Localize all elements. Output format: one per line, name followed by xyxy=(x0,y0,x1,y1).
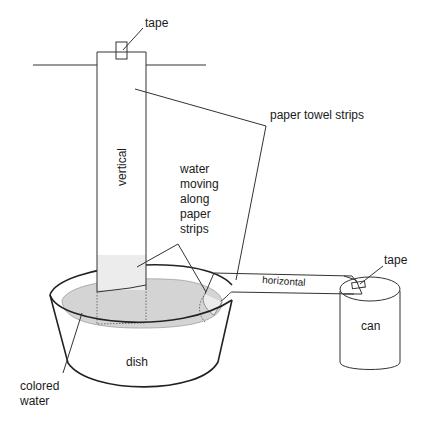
label-colored-water-1: colored xyxy=(20,379,59,393)
label-tape-can: tape xyxy=(384,253,408,267)
experiment-diagram: tape vertical horizontal tape can dish c… xyxy=(0,0,440,425)
label-water-moving-2: moving xyxy=(180,177,219,191)
tape-top-leader xyxy=(123,28,143,50)
label-vertical: vertical xyxy=(115,148,129,186)
tape-top xyxy=(116,42,127,59)
label-tape-top: tape xyxy=(145,16,169,30)
horizontal-strip-bottom-edge xyxy=(220,292,354,302)
tape-can-leader xyxy=(360,266,383,284)
label-water-moving-5: strips xyxy=(180,222,209,236)
label-dish: dish xyxy=(126,355,148,369)
paper-towel-leader-2 xyxy=(236,126,266,280)
vertical-strip-wet xyxy=(97,255,146,290)
label-water-moving-3: along xyxy=(180,192,209,206)
label-colored-water-2: water xyxy=(19,394,49,408)
label-water-moving-1: water xyxy=(179,162,209,176)
label-paper-towel-strips: paper towel strips xyxy=(270,108,364,122)
can-top xyxy=(340,277,400,301)
label-can: can xyxy=(361,319,380,333)
colored-water-leader xyxy=(63,313,82,373)
horizontal-strip-end xyxy=(344,276,362,294)
paper-towel-leader-1 xyxy=(135,89,266,126)
label-horizontal: horizontal xyxy=(262,274,306,288)
label-water-moving-4: paper xyxy=(180,207,211,221)
